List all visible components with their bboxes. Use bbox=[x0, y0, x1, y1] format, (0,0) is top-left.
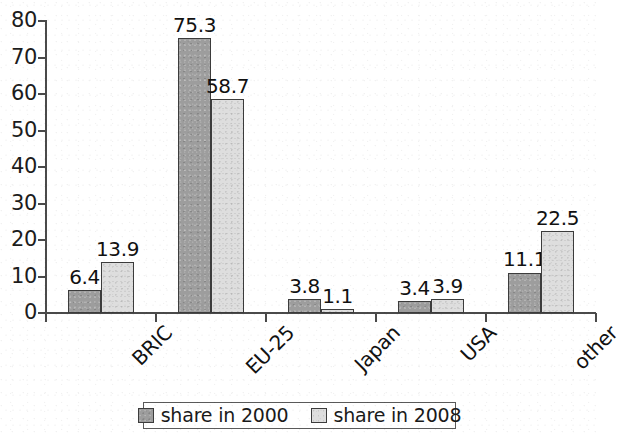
x-tick-0 bbox=[45, 313, 47, 322]
bar-other-share-in-2000 bbox=[508, 273, 541, 314]
legend-swatch-2000-icon bbox=[138, 408, 154, 423]
value-label-eu-25-share-in-2000: 75.3 bbox=[171, 15, 218, 35]
value-label-japan-share-in-2008: 1.1 bbox=[314, 286, 361, 306]
legend-item-share-2008: share in 2008 bbox=[311, 406, 462, 425]
bar-bric-share-in-2008 bbox=[101, 262, 134, 313]
value-label-eu-25-share-in-2008: 58.7 bbox=[204, 76, 251, 96]
value-label-other-share-in-2008: 22.5 bbox=[534, 208, 581, 228]
value-label-bric-share-in-2008: 13.9 bbox=[94, 239, 141, 259]
x-tick-3 bbox=[375, 313, 377, 322]
bar-usa-share-in-2008 bbox=[431, 299, 464, 313]
bar-japan-share-in-2008 bbox=[321, 309, 354, 313]
x-tick-2 bbox=[265, 313, 267, 322]
bars-layer: 6.413.975.358.73.81.13.43.911.122.5 bbox=[0, 0, 599, 313]
category-label-usa: USA bbox=[457, 322, 500, 365]
bar-other-share-in-2008 bbox=[541, 231, 574, 313]
value-label-usa-share-in-2008: 3.9 bbox=[424, 276, 471, 296]
legend-item-share-2000: share in 2000 bbox=[138, 406, 289, 425]
bar-usa-share-in-2000 bbox=[398, 301, 431, 313]
category-label-bric: BRIC bbox=[129, 322, 176, 369]
chart-legend: share in 2000 share in 2008 bbox=[143, 402, 456, 429]
legend-swatch-2008-icon bbox=[311, 408, 327, 423]
bar-bric-share-in-2000 bbox=[68, 290, 101, 313]
category-label-other: other bbox=[570, 322, 621, 373]
category-label-eu-25: EU-25 bbox=[242, 322, 297, 377]
bar-eu-25-share-in-2008 bbox=[211, 99, 244, 313]
x-tick-1 bbox=[155, 313, 157, 322]
legend-label-share-2000: share in 2000 bbox=[161, 406, 289, 425]
category-label-japan: Japan bbox=[351, 322, 404, 375]
legend-label-share-2008: share in 2008 bbox=[334, 406, 462, 425]
x-tick-5 bbox=[595, 313, 597, 322]
